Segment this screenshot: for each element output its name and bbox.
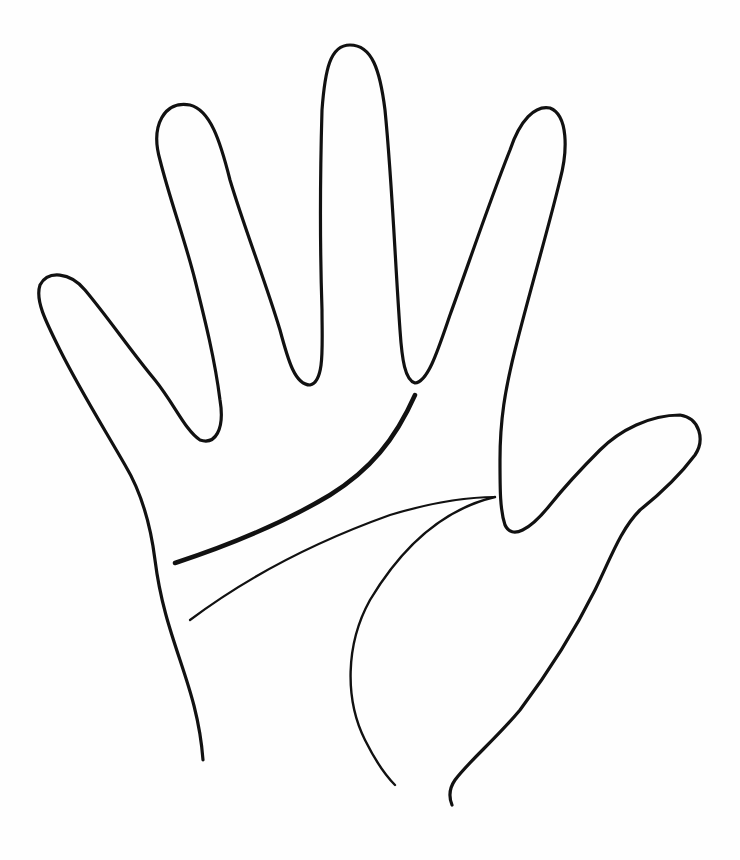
hand-drawing xyxy=(0,0,740,860)
palm-diagram xyxy=(0,0,740,860)
life-line xyxy=(351,497,495,785)
hand-outline xyxy=(39,45,700,805)
heart-line xyxy=(175,395,415,563)
